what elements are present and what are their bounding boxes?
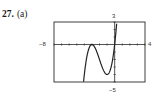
graph	[0, 0, 168, 105]
axes	[54, 22, 145, 82]
x-min-label: −8	[39, 41, 46, 47]
y-min-label: −5	[109, 87, 116, 93]
y-max-label: 3	[112, 13, 115, 19]
axis-ticks	[54, 22, 145, 82]
graph-frame	[54, 22, 145, 82]
function-curve	[84, 24, 117, 82]
x-max-label: 4	[148, 41, 151, 47]
